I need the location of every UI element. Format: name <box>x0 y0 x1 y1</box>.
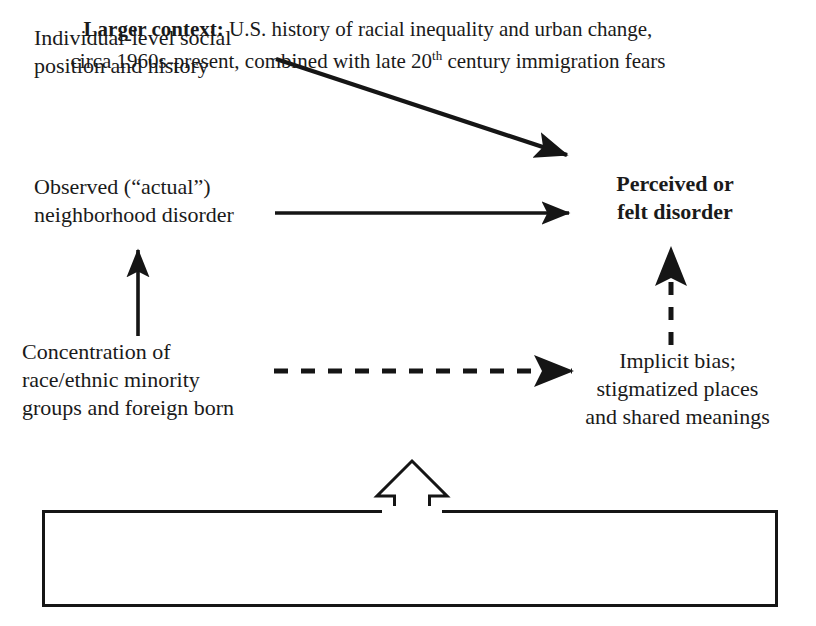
larger-context-superscript: th <box>432 48 442 63</box>
node-observed-neighborhood-disorder: Observed (“actual”) neighborhood disorde… <box>34 173 334 229</box>
larger-context-lead: Larger context: <box>84 17 224 41</box>
diagram-canvas: Individual-level social position and his… <box>0 0 816 626</box>
hollow-arrow-context-to-diagram <box>377 461 447 511</box>
larger-context-text: Larger context: U.S. history of racial i… <box>0 14 736 77</box>
larger-context-box <box>42 510 778 607</box>
node-concentration-race-ethnic-minority: Concentration of race/ethnic minority gr… <box>22 338 322 422</box>
larger-context-line2-post: century immigration fears <box>442 49 665 73</box>
node-perceived-or-felt-disorder: Perceived or felt disorder <box>580 170 770 226</box>
larger-context-line1: U.S. history of racial inequality and ur… <box>224 17 653 41</box>
box-top-notch <box>382 506 442 515</box>
larger-context-line2-pre: circa 1960s-present, combined with late … <box>70 49 432 73</box>
node-implicit-bias-stigmatized-places: Implicit bias; stigmatized places and sh… <box>570 347 785 431</box>
